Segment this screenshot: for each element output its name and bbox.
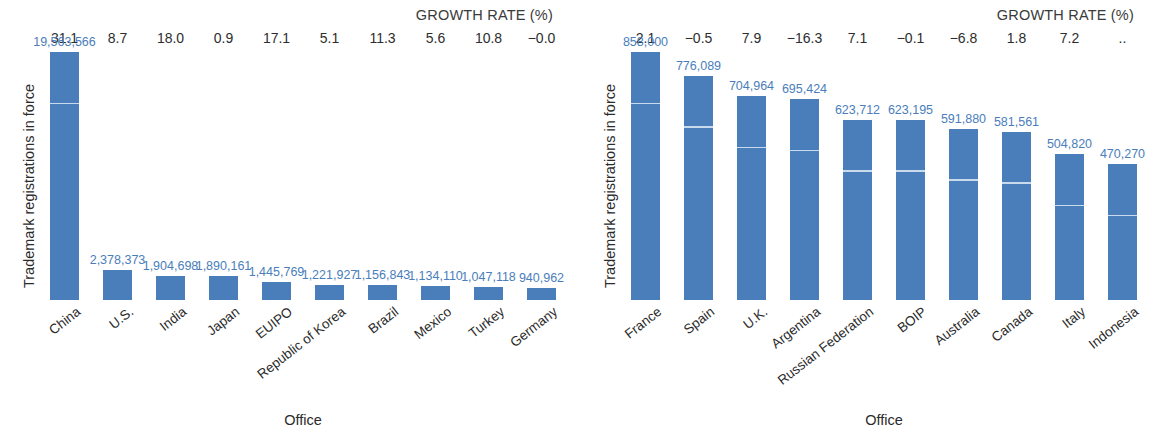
bar-value-label: 2,378,373 [90,253,146,267]
bar-seam-line [737,147,767,149]
growth-rate-value: .. [1119,30,1127,46]
growth-rate-value: −0.5 [685,30,713,46]
bar-australia: 591,880 [949,52,979,300]
bar-seam-line [684,126,714,128]
bar-value-label: 19,563,566 [33,35,96,49]
bar-rect [949,129,979,300]
x-axis-label: U.K. [740,304,770,332]
x-axis-label: Canada [988,304,1035,345]
bar-rect [421,286,451,300]
bar-boip: 623,195 [896,52,926,300]
growth-rate-value: −0.1 [897,30,925,46]
growth-rate-value: 5.6 [426,30,445,46]
bar-value-label: 623,195 [888,103,933,117]
bar-value-label: 591,880 [941,112,986,126]
x-axis-label: Spain [680,304,716,337]
growth-rate-value: 17.1 [263,30,290,46]
bar-seam-line [1108,215,1138,217]
bar-rect [843,120,873,300]
x-axis-labels: ChinaU.S.IndiaJapanEUIPORepublic of Kore… [38,302,568,402]
x-axis-label: India [156,304,188,334]
bar-japan: 1,890,161 [209,52,239,300]
bar-rect [1002,132,1032,300]
bar-rect [1108,164,1138,300]
bar-germany: 940,962 [527,52,557,300]
bar-seam-line [790,150,820,152]
bar-value-label: 581,561 [994,115,1039,129]
bar-seam-line [50,103,80,105]
bar-rect [50,52,80,300]
bar-spain: 776,089 [684,52,714,300]
x-axis-label: Indonesia [1085,304,1140,352]
growth-rate-value: 7.9 [742,30,761,46]
bar-value-label: 470,270 [1100,147,1145,161]
x-axis-label: France [621,304,663,342]
y-axis-title: Trademark registrations in force [21,61,37,311]
bar-rect [156,276,186,300]
x-axis-label: Australia [931,304,982,348]
bar-rect [684,76,714,300]
bar-rect [262,282,292,300]
bar-turkey: 1,047,118 [474,52,504,300]
bar-value-label: 1,890,161 [196,259,252,273]
x-axis-label: Germany [507,304,560,350]
growth-rate-value: 1.8 [1007,30,1026,46]
x-axis-label: BOIP [894,304,929,336]
bar-seam-line [1055,205,1085,207]
chart-panel-left: GROWTH RATE (%) 31.18.718.00.917.15.111.… [0,0,581,444]
x-axis-title: Office [38,412,568,428]
bar-rect [527,288,557,300]
bar-rect [896,120,926,300]
bar-value-label: 1,445,769 [249,265,305,279]
bar-france: 858,000 [631,52,661,300]
bar-argentina: 695,424 [790,52,820,300]
bar-value-label: 1,221,927 [302,268,358,282]
bar-rect [209,276,239,300]
x-axis-label: Brazil [365,304,401,337]
x-axis-label: Mexico [411,304,454,342]
bar-indonesia: 470,270 [1108,52,1138,300]
growth-rate-value: 0.9 [214,30,233,46]
growth-rate-header: GROWTH RATE (%) [416,7,553,23]
bar-value-label: 623,712 [835,103,880,117]
bar-value-label: 695,424 [782,82,827,96]
x-axis-label: Italy [1059,304,1088,331]
bar-republic-of-korea: 1,221,927 [315,52,345,300]
bar-mexico: 1,134,110 [421,52,451,300]
x-axis-label: China [46,304,83,338]
growth-rate-value: 5.1 [320,30,339,46]
bar-seam-line [843,170,873,172]
bar-u-s-: 2,378,373 [103,52,133,300]
growth-rate-value: −0.0 [528,30,556,46]
bar-value-label: 1,904,698 [143,259,199,273]
bar-value-label: 1,134,110 [408,269,463,283]
bar-canada: 581,561 [1002,52,1032,300]
bar-euipo: 1,445,769 [262,52,292,300]
growth-rate-value: 11.3 [369,30,395,46]
x-axis-label: Russian Federation [774,304,875,388]
x-axis-label: Turkey [465,304,506,341]
bar-value-label: 858,000 [623,35,668,49]
bar-value-label: 1,047,118 [461,270,516,284]
bar-rect [631,52,661,300]
growth-rate-header: GROWTH RATE (%) [997,7,1134,23]
bar-russian-federation: 623,712 [843,52,873,300]
bar-seam-line [1002,182,1032,184]
bar-seam-line [631,103,661,105]
bar-rect [790,99,820,300]
plot-area: 858,000776,089704,964695,424623,712623,1… [619,52,1149,300]
chart-panel-right: GROWTH RATE (%) 2.1−0.57.9−16.37.1−0.1−6… [581,0,1162,444]
bar-value-label: 776,089 [676,59,721,73]
bar-value-label: 1,156,843 [355,268,411,282]
growth-rate-value: 10.8 [475,30,502,46]
growth-rate-value: 7.2 [1060,30,1079,46]
x-axis-labels: FranceSpainU.K.ArgentinaRussian Federati… [619,302,1149,402]
x-axis-title: Office [619,412,1149,428]
growth-rate-value: −6.8 [950,30,978,46]
bar-rect [103,270,133,300]
x-axis-label: U.S. [106,304,136,332]
chart-page: GROWTH RATE (%) 31.18.718.00.917.15.111.… [0,0,1162,444]
bar-rect [1055,154,1085,300]
bar-brazil: 1,156,843 [368,52,398,300]
bar-rect [737,96,767,300]
